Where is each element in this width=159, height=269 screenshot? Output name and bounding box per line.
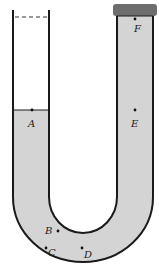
point-c-dot	[45, 247, 48, 250]
label-c: C	[48, 247, 56, 258]
point-e-dot	[134, 109, 137, 112]
label-a: A	[27, 118, 35, 129]
liquid-fill	[13, 16, 153, 262]
right-arm-cap	[113, 4, 157, 16]
label-e: E	[130, 118, 139, 129]
point-b-dot	[57, 230, 60, 233]
inner-tube-wall	[49, 10, 117, 233]
label-d: D	[83, 249, 92, 260]
u-tube-diagram: A B C D E F	[0, 0, 159, 269]
point-f-dot	[134, 18, 137, 21]
label-b: B	[44, 225, 52, 236]
point-d-dot	[81, 247, 84, 250]
label-f: F	[133, 23, 142, 34]
point-a-dot	[31, 109, 34, 112]
